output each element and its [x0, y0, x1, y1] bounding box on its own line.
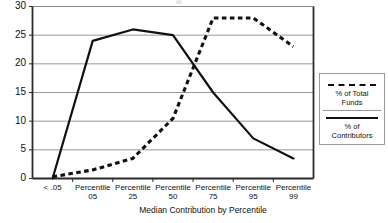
x-tick-label: Percentile99	[266, 183, 320, 201]
legend-solid-line-swatch	[320, 113, 384, 122]
y-tick-label: 30	[0, 1, 26, 11]
gridlines	[33, 7, 314, 150]
y-tick-label: 0	[0, 173, 26, 183]
series-line-total-funds	[53, 18, 294, 177]
legend-item-total-funds: % of Total Funds	[320, 74, 384, 107]
y-tick-label: 10	[0, 116, 26, 126]
y-tick-label: 25	[0, 30, 26, 40]
legend-label-line1: % of Total	[320, 89, 384, 98]
series-line-contributors	[53, 29, 294, 178]
scan-artifact	[176, 0, 182, 4]
data-series-group	[53, 18, 294, 179]
legend-item-contributors: % of Contributors	[320, 113, 384, 140]
y-tick-label: 15	[0, 87, 26, 97]
chart-figure: 051015202530 < .05Percentile05Percentile…	[0, 0, 388, 223]
legend-label-line1: % of	[320, 122, 384, 131]
x-tick-label-line1: Percentile	[266, 183, 320, 192]
y-tick-label: 20	[0, 58, 26, 68]
legend-dashed-line-swatch	[320, 80, 384, 89]
chart-legend: % of Total Funds % of Contributors	[319, 73, 385, 145]
y-tick-label: 5	[0, 144, 26, 154]
legend-label-line2: Contributors	[320, 131, 384, 140]
legend-label-line2: Funds	[320, 98, 384, 107]
legend-divider	[323, 110, 381, 111]
x-axis-title: Median Contribution by Percentile	[0, 205, 388, 215]
x-tick-label-line2: 99	[266, 192, 320, 201]
